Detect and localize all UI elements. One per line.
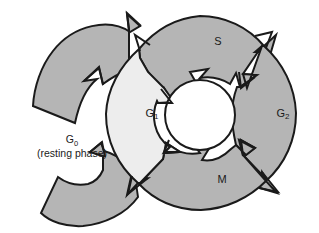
resting-phase-caption: (resting phase) — [37, 147, 107, 159]
cell-cycle-figure: G1 S G2 M G0 (resting phase) — [0, 0, 319, 233]
phase-label-g0: G0 — [66, 133, 78, 148]
cell-cycle-svg: G1 S G2 M G0 (resting phase) — [0, 0, 319, 233]
inner-hole-group — [165, 80, 235, 150]
cycle-inner-hole — [165, 80, 235, 150]
phase-label-m: M — [217, 173, 226, 185]
phase-label-s: S — [214, 35, 221, 47]
